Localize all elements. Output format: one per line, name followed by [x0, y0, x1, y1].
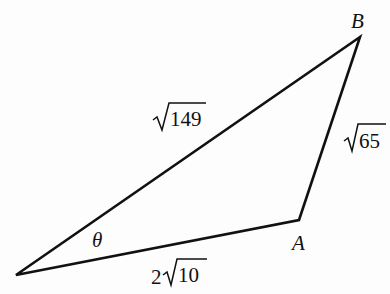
side-label-a-b: 65	[344, 124, 386, 153]
vertex-label-a: A	[290, 231, 305, 255]
side-value-10: 10	[178, 263, 199, 287]
triangle	[16, 37, 360, 275]
side-label-left-b: 149	[153, 103, 206, 131]
side-value-149: 149	[170, 107, 202, 131]
vertex-label-b: B	[351, 9, 364, 33]
side-coef-2: 2	[151, 265, 162, 289]
diagram-canvas: B A θ 149 65 2 10	[0, 0, 390, 294]
angle-label-theta: θ	[92, 228, 102, 252]
triangle-diagram: B A θ 149 65 2 10	[0, 0, 390, 294]
side-label-left-a: 2 10	[151, 259, 207, 289]
side-value-65: 65	[359, 129, 380, 153]
